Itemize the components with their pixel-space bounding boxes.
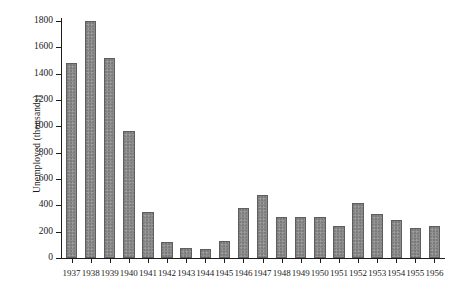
x-axis-tick <box>167 259 168 263</box>
bar <box>180 248 191 258</box>
x-axis-tick <box>377 259 378 263</box>
x-axis-tick <box>72 259 73 263</box>
x-axis-tick <box>148 259 149 263</box>
x-axis-tick <box>186 259 187 263</box>
y-axis-tick-label: 0 <box>1 253 53 263</box>
x-axis-tick <box>263 259 264 263</box>
bar <box>295 217 306 258</box>
bar <box>257 195 268 258</box>
x-axis-tick <box>415 259 416 263</box>
x-axis-tick <box>396 259 397 263</box>
x-axis-tick-label: 1956 <box>417 268 451 278</box>
bar <box>314 217 325 258</box>
bar <box>142 212 153 258</box>
bar <box>161 242 172 258</box>
bar <box>85 21 96 258</box>
y-axis-tick-label: 1800 <box>1 16 53 26</box>
x-axis-tick <box>358 259 359 263</box>
y-axis-tick-label: 1600 <box>1 42 53 52</box>
y-axis-tick <box>56 47 61 48</box>
bar <box>200 249 211 258</box>
y-axis-tick <box>56 179 61 180</box>
y-axis-tick-label: 800 <box>1 148 53 158</box>
y-axis-tick-label: 1000 <box>1 121 53 131</box>
y-axis-tick <box>56 74 61 75</box>
y-axis-tick <box>56 205 61 206</box>
x-axis-tick <box>434 259 435 263</box>
x-axis-tick <box>243 259 244 263</box>
y-axis-tick-label: 1400 <box>1 69 53 79</box>
bar <box>352 203 363 258</box>
x-axis-tick <box>320 259 321 263</box>
x-axis-tick <box>339 259 340 263</box>
x-axis-tick <box>301 259 302 263</box>
bar <box>238 208 249 258</box>
x-axis-tick <box>91 259 92 263</box>
y-axis-tick-label: 1200 <box>1 95 53 105</box>
bar <box>219 241 230 258</box>
x-axis-tick <box>129 259 130 263</box>
bar <box>410 228 421 258</box>
bar <box>104 58 115 258</box>
y-axis-tick <box>56 232 61 233</box>
bar <box>371 214 382 258</box>
y-axis-tick <box>56 153 61 154</box>
y-axis-tick <box>56 100 61 101</box>
x-axis-tick <box>282 259 283 263</box>
bar <box>276 217 287 258</box>
bar <box>123 131 134 258</box>
y-axis-tick-label: 600 <box>1 174 53 184</box>
plot-area <box>62 21 444 258</box>
y-axis-tick <box>56 21 61 22</box>
y-axis-tick <box>56 258 61 259</box>
bar-chart: Unemployed (thousands) 02004006008001000… <box>0 0 452 290</box>
y-axis-tick-label: 400 <box>1 200 53 210</box>
bar <box>429 226 440 258</box>
y-axis-tick <box>56 126 61 127</box>
bar <box>66 63 77 258</box>
x-axis-line <box>61 258 445 259</box>
x-axis-tick <box>110 259 111 263</box>
x-axis-tick <box>205 259 206 263</box>
y-axis-tick-label: 200 <box>1 227 53 237</box>
bar <box>391 220 402 258</box>
x-axis-tick <box>224 259 225 263</box>
bar <box>333 226 344 258</box>
